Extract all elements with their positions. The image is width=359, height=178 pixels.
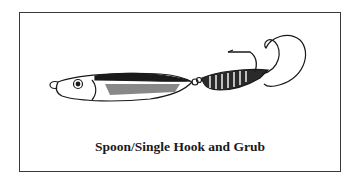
spoon-icon (50, 73, 192, 101)
figure-caption: Spoon/Single Hook and Grub (19, 139, 341, 155)
grub-icon (202, 35, 306, 90)
split-ring-icon (192, 78, 202, 86)
hook-icon (228, 50, 256, 72)
